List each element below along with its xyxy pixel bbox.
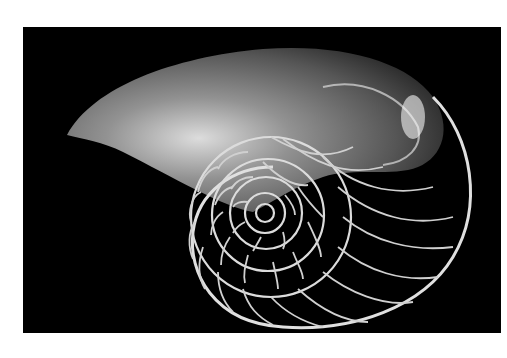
nautilus-shell-illustration (23, 27, 501, 333)
nautilus-photo: Black and white photograph of a nautilus… (23, 27, 501, 333)
